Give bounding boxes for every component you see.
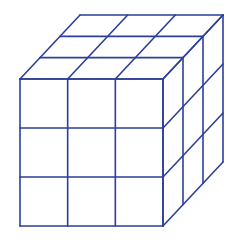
right-depth-line xyxy=(163,113,223,177)
top-depth-line xyxy=(20,15,80,79)
cube-diagram xyxy=(0,0,241,242)
right-depth-line xyxy=(163,15,223,79)
right-depth-line xyxy=(163,64,223,128)
front-face xyxy=(20,79,163,226)
top-depth-line xyxy=(115,15,175,79)
top-depth-line xyxy=(68,15,128,79)
right-depth-line xyxy=(163,162,223,226)
right-face xyxy=(163,15,223,226)
